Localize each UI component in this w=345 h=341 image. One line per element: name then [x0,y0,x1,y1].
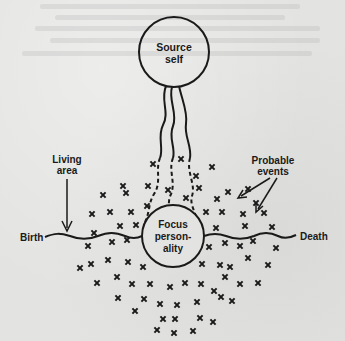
focus-personality-node: Focus person- ality [142,205,204,267]
event-marker-x-icon [242,223,247,228]
probable-events-label-line2: events [257,166,289,177]
event-marker-x-icon [229,298,234,303]
event-marker-x-icon [190,328,195,333]
event-marker-x-icon [124,237,129,242]
event-marker-x-icon [255,280,260,285]
event-marker-x-icon [94,280,99,285]
death-label: Death [300,231,328,242]
event-marker-x-icon [105,257,110,262]
event-marker-x-icon [198,281,203,286]
event-marker-x-icon [109,239,114,244]
event-marker-x-icon [218,294,223,299]
timeline-right [204,233,296,239]
event-marker-x-icon [245,255,250,260]
event-marker-x-icon [203,209,208,214]
event-marker-x-icon [172,316,177,321]
event-marker-x-icon [222,274,227,279]
event-marker-x-icon [193,173,198,178]
thread-middle-solid [171,87,174,158]
living-area-label-line1: Living [52,154,81,165]
source-self-node: Source self [139,17,209,87]
event-marker-x-icon [240,211,245,216]
event-marker-x-icon [129,281,134,286]
event-marker-x-icon [237,243,242,248]
event-marker-x-icon [114,274,119,279]
event-marker-x-icon [140,264,145,269]
event-marker-x-icon [157,301,162,306]
event-marker-x-icon [225,189,230,194]
probable-events-annotation: Probable events [238,155,295,212]
focus-label-line2: person- [155,231,192,242]
event-marker-x-icon [199,261,204,266]
event-marker-x-icon [237,281,242,286]
diagram-page: Source self Focus person- ality [0,0,345,341]
event-marker-x-icon [128,209,133,214]
probable-events-diagram: Source self Focus person- ality [0,0,345,341]
event-marker-x-icon [100,192,105,197]
thread-right-solid [179,86,190,158]
living-area-annotation: Living area [52,154,81,231]
event-marker-x-icon [183,195,188,200]
event-marker-x-icon [206,244,211,249]
event-marker-x-icon [174,302,179,307]
event-marker-x-icon [145,183,150,188]
event-marker-x-icon [196,185,201,190]
event-marker-x-icon [154,327,159,332]
probable-events-label-line1: Probable [252,155,295,166]
event-marker-x-icon [209,164,214,169]
source-label-line1: Source [156,41,192,53]
event-marker-x-icon [213,225,218,230]
event-marker-x-icon [250,238,255,243]
event-marker-x-icon [182,280,187,285]
focus-label-line3: ality [163,243,183,254]
connection-threads [145,86,196,222]
event-marker-x-icon [269,224,274,229]
event-marker-x-icon [171,330,176,335]
event-marker-x-icon [194,299,199,304]
event-marker-x-icon [85,243,90,248]
event-marker-x-icon [91,230,96,235]
event-marker-x-icon [265,262,270,267]
event-marker-x-icon [147,281,152,286]
event-marker-x-icon [132,308,137,313]
event-marker-x-icon [214,196,219,201]
event-marker-x-icon [210,319,215,324]
source-label-line2: self [165,53,184,65]
event-marker-x-icon [211,288,216,293]
event-marker-x-icon [117,223,122,228]
probable-events-arrow-2 [258,178,277,209]
event-marker-x-icon [125,259,130,264]
birth-label: Birth [20,232,43,243]
event-marker-x-icon [178,156,183,161]
event-marker-x-icon [227,264,232,269]
event-marker-x-icon [165,187,170,192]
event-marker-x-icon [167,284,172,289]
event-marker-x-icon [107,209,112,214]
event-marker-x-icon [123,190,128,195]
event-marker-x-icon [77,265,82,270]
event-marker-x-icon [141,296,146,301]
event-marker-x-icon [88,261,93,266]
event-marker-x-icon [219,209,224,214]
living-area-label-line2: area [57,165,78,176]
event-marker-x-icon [273,245,278,250]
event-marker-x-icon [133,222,138,227]
focus-label-line1: Focus [158,219,188,230]
event-marker-x-icon [261,210,266,215]
event-marker-x-icon [120,183,125,188]
event-marker-x-icon [150,161,155,166]
event-marker-x-icon [222,240,227,245]
event-marker-x-icon [217,262,222,267]
event-marker-x-icon [115,295,120,300]
event-marker-x-icon [160,316,165,321]
event-marker-x-icon [89,211,94,216]
thread-left-solid [160,86,166,158]
event-marker-x-icon [197,315,202,320]
